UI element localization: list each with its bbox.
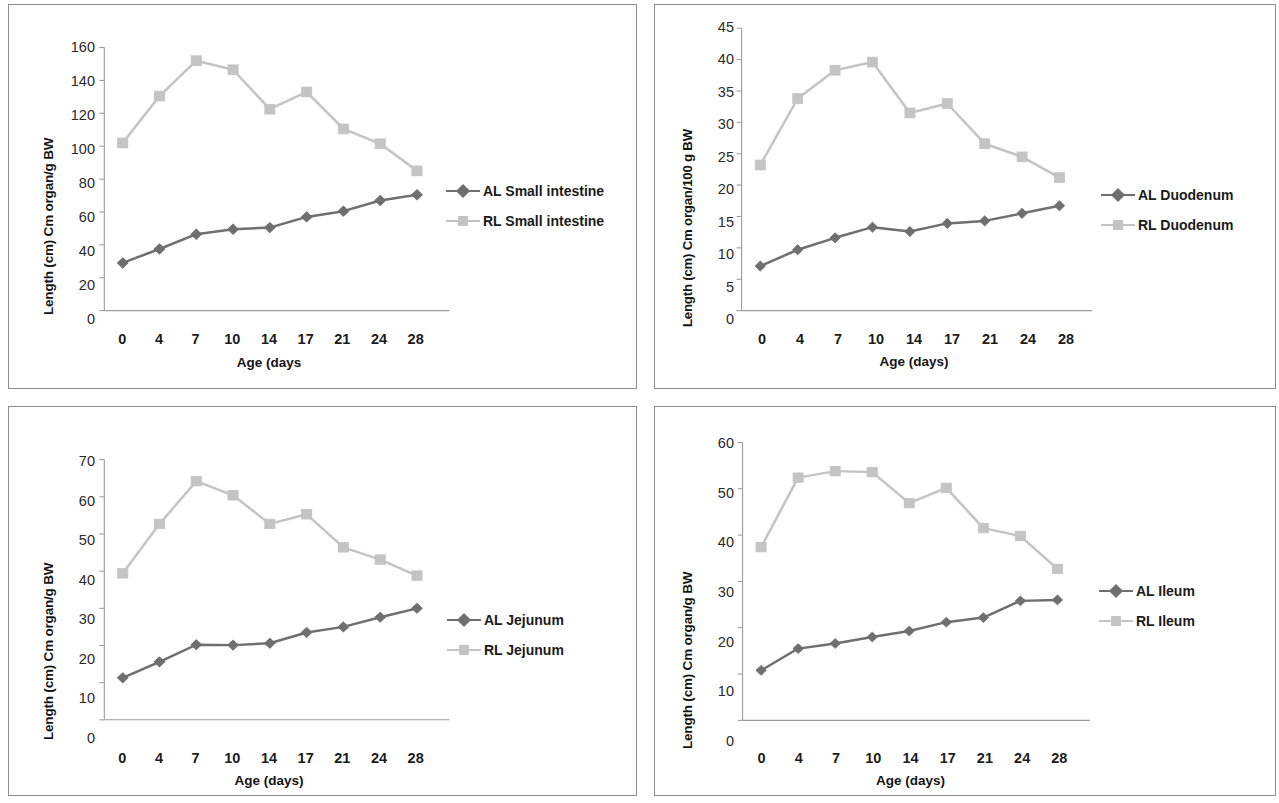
legend-square-marker-icon: [1101, 219, 1135, 231]
legend-item[interactable]: RL Ileum: [1099, 613, 1195, 629]
y-axis-tick-label: 60: [49, 494, 95, 509]
x-axis-tick-label: 28: [1046, 332, 1086, 347]
x-axis-tick-label: 0: [102, 332, 142, 347]
x-axis-tick-label: 7: [816, 751, 856, 766]
y-axis-title: Length (cm) Cm organ/g BW: [41, 563, 56, 740]
x-axis-tick-label: 28: [396, 751, 436, 766]
x-axis-tick-label: 7: [176, 751, 216, 766]
legend-item-label: AL Small intestine: [483, 183, 604, 199]
y-axis-tick-label: 45: [688, 20, 734, 35]
legend-item[interactable]: RL Duodenum: [1101, 217, 1233, 233]
y-axis-title: Length (cm) Cm organ/g BW: [680, 572, 695, 749]
legend-item[interactable]: AL Duodenum: [1101, 187, 1233, 203]
x-axis-tick-label: 17: [286, 751, 326, 766]
legend-item[interactable]: AL Jejunum: [447, 612, 564, 628]
x-axis-tick-label: 4: [139, 751, 179, 766]
x-axis-tick-label: 10: [853, 751, 893, 766]
x-axis-title: Age (days): [104, 773, 434, 788]
x-axis-tick-label: 17: [286, 332, 326, 347]
x-axis-tick-label: 10: [856, 332, 896, 347]
x-axis-title: Age (days): [743, 354, 1085, 369]
y-axis-tick-label: 120: [49, 108, 95, 123]
y-axis-title: Length (cm) Cm organ/100 g BW: [680, 129, 695, 327]
x-axis-tick-label: 24: [1002, 751, 1042, 766]
legend-item[interactable]: RL Jejunum: [447, 642, 564, 658]
x-axis-title: Age (days): [743, 773, 1078, 788]
legend-item-label: RL Ileum: [1136, 613, 1195, 629]
x-axis-tick-label: 10: [212, 751, 252, 766]
y-axis-tick-label: 50: [688, 486, 734, 501]
x-axis-tick-label: 21: [965, 751, 1005, 766]
x-axis-tick-label: 21: [322, 332, 362, 347]
y-axis-tick-label: 50: [49, 533, 95, 548]
x-axis-tick-label: 14: [891, 751, 931, 766]
series-line: [761, 471, 1057, 569]
legend-item-label: RL Jejunum: [484, 642, 564, 658]
chart-panel-jejunum: 010203040506070047101417212428Length (cm…: [8, 406, 637, 796]
y-axis-tick-label: 140: [49, 74, 95, 89]
legend-item-label: RL Duodenum: [1138, 217, 1233, 233]
x-axis-tick-label: 0: [742, 751, 782, 766]
x-axis-title: Age (days: [104, 355, 434, 370]
legend-square-marker-icon: [446, 215, 480, 227]
legend-item-label: AL Ileum: [1136, 583, 1195, 599]
y-axis-title: Length (cm) Cm organ/g BW: [41, 138, 56, 315]
x-axis-tick-label: 10: [212, 332, 252, 347]
plot-area-jejunum: [9, 407, 636, 795]
x-axis-tick-label: 24: [359, 332, 399, 347]
x-axis-tick-label: 17: [928, 751, 968, 766]
x-axis-tick-label: 21: [970, 332, 1010, 347]
x-axis-tick-label: 14: [894, 332, 934, 347]
x-axis-tick-label: 4: [780, 332, 820, 347]
legend-diamond-marker-icon: [1101, 189, 1135, 201]
x-axis-tick-label: 28: [1039, 751, 1079, 766]
x-axis-tick-label: 4: [779, 751, 819, 766]
legend-item-label: AL Duodenum: [1138, 187, 1233, 203]
series-line: [123, 61, 417, 171]
legend-item[interactable]: AL Small intestine: [446, 183, 604, 199]
legend-diamond-marker-icon: [446, 185, 480, 197]
chart-panel-ileum: 0102030405060047101417212428Length (cm) …: [654, 406, 1276, 796]
x-axis-tick-label: 0: [102, 751, 142, 766]
x-axis-tick-label: 14: [249, 751, 289, 766]
chart-panel-small-intestine: 020406080100120140160047101417212428Leng…: [8, 4, 637, 389]
x-axis-tick-label: 0: [742, 332, 782, 347]
legend-diamond-marker-icon: [447, 614, 481, 626]
x-axis-tick-label: 14: [249, 332, 289, 347]
y-axis-tick-label: 60: [688, 436, 734, 451]
y-axis-tick-label: 160: [49, 40, 95, 55]
legend-item[interactable]: AL Ileum: [1099, 583, 1195, 599]
legend-item[interactable]: RL Small intestine: [446, 213, 604, 229]
x-axis-tick-label: 4: [139, 332, 179, 347]
chart-legend: AL Small intestineRL Small intestine: [446, 183, 604, 243]
x-axis-tick-label: 7: [176, 332, 216, 347]
chart-panel-duodenum: 051015202530354045047101417212428Length …: [654, 4, 1276, 389]
y-axis-tick-label: 70: [49, 454, 95, 469]
x-axis-tick-label: 17: [932, 332, 972, 347]
chart-legend: AL JejunumRL Jejunum: [447, 612, 564, 672]
chart-legend: AL IleumRL Ileum: [1099, 583, 1195, 643]
x-axis-tick-label: 21: [322, 751, 362, 766]
legend-item-label: AL Jejunum: [484, 612, 564, 628]
legend-square-marker-icon: [1099, 615, 1133, 627]
x-axis-tick-label: 7: [818, 332, 858, 347]
figure-grid: 020406080100120140160047101417212428Leng…: [0, 0, 1279, 803]
legend-square-marker-icon: [447, 644, 481, 656]
x-axis-tick-label: 24: [359, 751, 399, 766]
chart-legend: AL DuodenumRL Duodenum: [1101, 187, 1233, 247]
x-axis-tick-label: 24: [1008, 332, 1048, 347]
y-axis-tick-label: 40: [688, 52, 734, 67]
legend-item-label: RL Small intestine: [483, 213, 604, 229]
y-axis-tick-label: 40: [688, 535, 734, 550]
legend-diamond-marker-icon: [1099, 585, 1133, 597]
series-line: [760, 62, 1059, 177]
y-axis-tick-label: 35: [688, 85, 734, 100]
x-axis-tick-label: 28: [396, 332, 436, 347]
